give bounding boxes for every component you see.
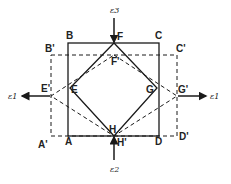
label-b: B bbox=[66, 30, 73, 41]
label-d: D bbox=[155, 136, 162, 147]
label-b-prime: B' bbox=[45, 43, 55, 54]
label-c: C bbox=[155, 30, 162, 41]
label-a-prime: A' bbox=[38, 139, 48, 150]
label-h: H bbox=[109, 124, 116, 135]
label-e-prime: E' bbox=[41, 83, 50, 94]
label-f: F bbox=[117, 31, 123, 42]
label-epsilon2: ε2 bbox=[110, 165, 119, 174]
label-g: G bbox=[146, 84, 154, 95]
label-h-prime: H' bbox=[117, 137, 127, 148]
label-epsilon1-right: ε1 bbox=[210, 92, 219, 101]
label-e: E bbox=[71, 84, 78, 95]
label-g-prime: G' bbox=[178, 84, 188, 95]
label-f-prime: F' bbox=[111, 56, 120, 67]
label-epsilon3: ε3 bbox=[110, 6, 119, 15]
label-c-prime: C' bbox=[176, 43, 186, 54]
strain-diagram: B C F B' C' F' E' E G G' H A' A H' D D' … bbox=[0, 0, 231, 184]
label-a: A bbox=[65, 136, 72, 147]
label-epsilon1-left: ε1 bbox=[8, 92, 17, 101]
diagram-svg: B C F B' C' F' E' E G G' H A' A H' D D' … bbox=[0, 0, 231, 184]
label-d-prime: D' bbox=[179, 131, 189, 142]
